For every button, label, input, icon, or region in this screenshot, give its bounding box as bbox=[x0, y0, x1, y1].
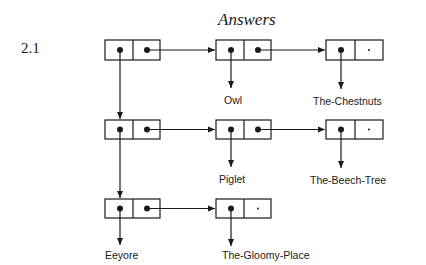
atom-label-beech: The-Beech-Tree bbox=[310, 174, 386, 186]
cons-cell-row3-gloomy bbox=[216, 199, 271, 218]
cons-cell-row2-beech bbox=[326, 120, 383, 139]
atom-label-owl: Owl bbox=[224, 94, 242, 106]
cons-cell-row1-chestnuts bbox=[326, 40, 383, 60]
cons-cell-diagram bbox=[0, 0, 426, 265]
atom-label-gloomy: The-Gloomy-Place bbox=[222, 249, 310, 261]
atom-label-chestnuts: The-Chestnuts bbox=[313, 95, 382, 107]
atom-label-piglet: Piglet bbox=[219, 173, 245, 185]
atom-label-eeyore: Eeyore bbox=[105, 249, 138, 261]
